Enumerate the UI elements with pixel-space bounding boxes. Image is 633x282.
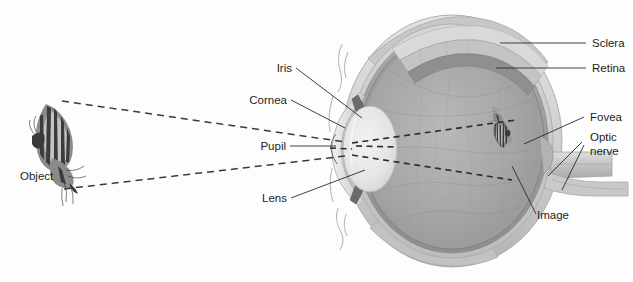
label-optic-nerve-line1: Optic xyxy=(590,131,617,143)
ray-upper-incoming xyxy=(62,101,345,142)
eye-diagram-figure: Object Iris Cornea Pupil Lens Sclera Ret… xyxy=(0,0,633,282)
ray-lower-incoming xyxy=(64,156,345,189)
label-cornea: Cornea xyxy=(249,94,287,106)
label-optic-nerve-line2: nerve xyxy=(590,145,619,157)
label-retina: Retina xyxy=(592,62,626,74)
label-pupil: Pupil xyxy=(260,140,286,152)
object-butterfly xyxy=(30,104,87,206)
label-iris: Iris xyxy=(277,62,293,74)
eye-diagram-canvas: Object Iris Cornea Pupil Lens Sclera Ret… xyxy=(0,0,633,282)
label-lens: Lens xyxy=(262,192,287,204)
label-fovea: Fovea xyxy=(590,111,623,123)
label-image: Image xyxy=(537,209,569,221)
label-sclera: Sclera xyxy=(592,37,625,49)
label-object: Object xyxy=(20,170,54,182)
leader-cornea xyxy=(291,100,345,128)
